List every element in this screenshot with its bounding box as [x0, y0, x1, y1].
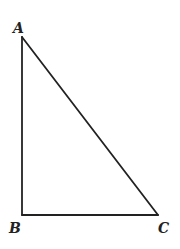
edge-ca	[22, 37, 158, 215]
vertex-label-c: C	[158, 220, 169, 236]
triangle-diagram: A B C	[0, 0, 180, 249]
vertex-label-a: A	[11, 20, 24, 36]
vertex-label-b: B	[8, 220, 21, 236]
